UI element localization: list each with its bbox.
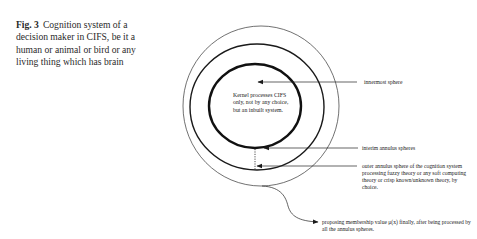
kernel-text: Kernel processes CIFS only, not by any c…: [233, 92, 293, 114]
label-interim-annulus: interim annulus spheres: [362, 145, 472, 152]
output-curve-arrow: [262, 186, 318, 222]
label-outer-annulus: outer annulus sphere of the cognition sy…: [362, 163, 474, 191]
cognition-sphere-diagram: [0, 0, 477, 239]
label-innermost-sphere: innermost sphere: [364, 79, 464, 86]
label-membership-output: proposing membership value μ(x) finally,…: [322, 219, 472, 233]
